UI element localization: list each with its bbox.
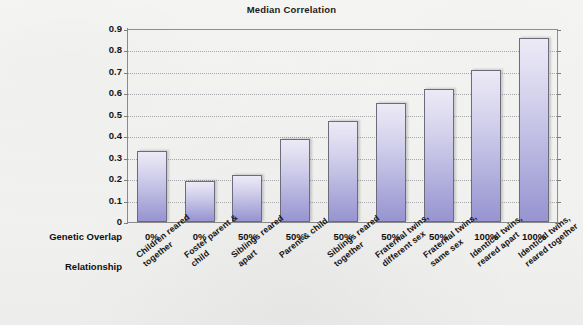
bar xyxy=(328,121,358,222)
y-axis-tick-label: 0.5 xyxy=(90,109,122,120)
plot-area xyxy=(128,29,558,222)
right-axis-tick-mark xyxy=(557,73,561,74)
y-axis-tick-mark xyxy=(124,94,128,95)
y-axis-tick-label: 0.7 xyxy=(90,66,122,77)
bar xyxy=(519,38,549,222)
y-axis-tick-mark xyxy=(124,223,128,224)
relationship-row-header: Relationship xyxy=(4,261,122,272)
y-axis-tick-mark xyxy=(124,202,128,203)
gridline xyxy=(128,51,557,52)
right-axis-tick-mark xyxy=(557,94,561,95)
y-axis-tick-label: 0.6 xyxy=(90,87,122,98)
y-axis-tick-mark xyxy=(124,30,128,31)
y-axis-tick-label: 0 xyxy=(90,216,122,227)
bar xyxy=(137,151,167,222)
y-axis-tick-mark xyxy=(124,51,128,52)
right-axis-tick-mark xyxy=(557,137,561,138)
right-axis-tick-mark xyxy=(557,51,561,52)
right-axis-tick-mark xyxy=(557,202,561,203)
bar xyxy=(424,89,454,222)
bar xyxy=(185,181,215,222)
y-axis-tick-label: 0.8 xyxy=(90,44,122,55)
bar xyxy=(280,139,310,222)
right-axis-tick-mark xyxy=(557,116,561,117)
y-axis-tick-label: 0.9 xyxy=(90,23,122,34)
bar xyxy=(471,70,501,222)
y-axis-tick-mark xyxy=(124,180,128,181)
right-axis-tick-mark xyxy=(557,180,561,181)
right-axis-tick-mark xyxy=(557,159,561,160)
genetic-overlap-row-header: Genetic Overlap xyxy=(4,231,122,242)
y-axis-tick-mark xyxy=(124,116,128,117)
chart-title: Median Correlation xyxy=(0,4,583,15)
y-axis-tick-mark xyxy=(124,73,128,74)
y-axis-tick-mark xyxy=(124,159,128,160)
y-axis-tick-label: 0.4 xyxy=(90,130,122,141)
right-axis-tick-mark xyxy=(557,30,561,31)
y-axis-tick-label: 0.2 xyxy=(90,173,122,184)
y-axis-tick-label: 0.3 xyxy=(90,152,122,163)
bar xyxy=(232,175,262,222)
bar xyxy=(376,103,406,222)
y-axis-tick-mark xyxy=(124,137,128,138)
y-axis-tick-label: 0.1 xyxy=(90,195,122,206)
